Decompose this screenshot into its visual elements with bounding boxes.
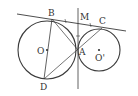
label-m: M [80,12,89,22]
center-o-prime-dot [98,49,100,51]
label-b: B [48,8,55,18]
tangent-line-bc [17,14,126,31]
label-d: D [40,82,47,92]
label-a: A [78,47,86,57]
segment-bd [44,19,52,79]
label-o-prime: O' [95,53,105,63]
segment-ba [52,19,78,50]
label-o: O [37,46,44,56]
tick-mark-bm [65,19,66,23]
label-c: C [99,16,106,26]
geometry-diagram: B M C O A O' D [0,0,138,96]
center-o-dot [46,49,48,51]
segment-dc [44,28,102,79]
